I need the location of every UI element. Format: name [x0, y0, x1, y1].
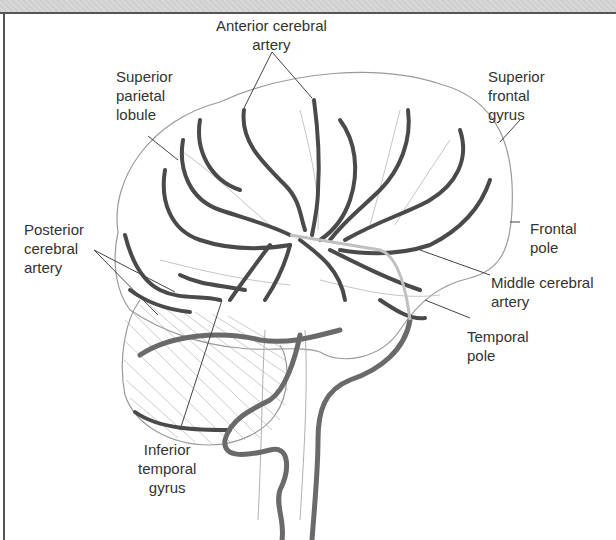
label-anterior-cerebral-artery: Anterior cerebral artery — [216, 16, 327, 54]
label-posterior-cerebral-artery: Posterior cerebral artery — [24, 220, 84, 277]
label-temporal-pole: Temporal pole — [467, 327, 529, 365]
label-middle-cerebral-artery: Middle cerebral artery — [491, 273, 594, 311]
label-superior-frontal-gyrus: Superior frontal gyrus — [488, 67, 545, 124]
label-superior-parietal-lobule: Superior parietal lobule — [116, 67, 173, 124]
label-inferior-temporal-gyrus: Inferior temporal gyrus — [138, 440, 196, 497]
label-frontal-pole: Frontal pole — [530, 219, 577, 257]
